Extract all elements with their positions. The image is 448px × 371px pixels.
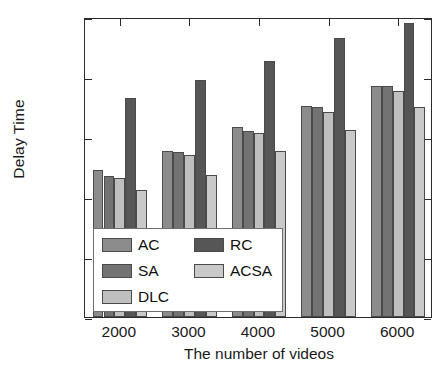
x-tick-label: 3000 [153,323,223,341]
y-tick-mark [85,319,92,320]
x-tick-label: 6000 [362,323,432,341]
x-tick-mark-top [189,19,190,26]
legend-entry-dlc: DLC [102,287,169,307]
x-tick-label: 4000 [223,323,293,341]
bar-ac-6000 [371,86,382,317]
legend-label-sa: SA [138,263,159,279]
legend-entry-sa: SA [102,261,159,281]
legend-label-acsa: ACSA [230,263,272,279]
bar-acsa-5000 [345,130,356,318]
y-tick-mark [85,79,92,80]
x-tick-mark-top [329,19,330,26]
y-tick-mark [85,259,92,260]
bar-dlc-6000 [393,91,404,318]
bar-dlc-5000 [323,112,334,318]
legend-swatch-ac [102,238,132,252]
y-tick-mark [85,19,92,20]
bar-rc-6000 [404,23,415,317]
legend-swatch-rc [194,238,224,252]
legend-entry-ac: AC [102,235,160,255]
legend-swatch-sa [102,264,132,278]
y-tick-mark [85,199,92,200]
legend-label-rc: RC [230,237,252,253]
legend-entry-rc: RC [194,235,252,255]
x-tick-mark-top [398,19,399,26]
bar-sa-6000 [382,86,393,317]
bar-acsa-6000 [414,107,425,317]
legend-swatch-dlc [102,290,132,304]
bar-ac-5000 [301,106,312,318]
x-tick-mark-top [120,19,121,26]
bar-rc-5000 [334,38,345,317]
legend-entry-acsa: ACSA [194,261,272,281]
y-axis-label: Delay Time [10,84,28,194]
legend-label-dlc: DLC [138,289,169,305]
y-tick-mark-right [424,79,431,80]
chart-figure: Delay Time The number of videos 02040608… [0,0,448,371]
bar-sa-5000 [312,107,323,317]
y-tick-mark-right [424,319,431,320]
x-axis-label: The number of videos [84,345,434,363]
chart-legend: ACRCSAACSADLC [93,228,283,312]
y-tick-mark-right [424,19,431,20]
y-tick-mark [85,139,92,140]
x-tick-label: 2000 [84,323,154,341]
x-tick-label: 5000 [293,323,363,341]
legend-swatch-acsa [194,264,224,278]
legend-label-ac: AC [138,237,160,253]
x-tick-mark-top [259,19,260,26]
